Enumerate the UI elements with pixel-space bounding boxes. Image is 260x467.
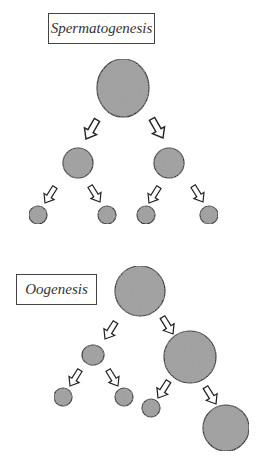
first-polar-body-cell (82, 345, 104, 365)
secondary-spermatocyte-right-cell (154, 148, 184, 178)
primary-oocyte-cell (115, 266, 165, 316)
secondary-oocyte-cell (164, 331, 216, 383)
arrow-icon (144, 184, 164, 206)
arrow-icon (100, 319, 121, 342)
ovum-cell (203, 405, 249, 451)
polar-body-cell (54, 388, 72, 406)
spermatid-cell (29, 206, 47, 224)
arrow-icon (85, 183, 105, 205)
arrow-icon (146, 115, 169, 141)
arrow-icon (65, 367, 85, 389)
arrow-icon (153, 378, 174, 401)
polar-body-cell (115, 388, 133, 406)
spermatogenesis-cells (29, 59, 218, 224)
arrow-icon (103, 367, 123, 389)
arrow-icon (40, 184, 60, 206)
spermatid-cell (200, 206, 218, 224)
polar-body-cell (142, 399, 160, 417)
arrow-icon (157, 314, 178, 337)
primary-spermatocyte-cell (97, 59, 149, 117)
oogenesis-cells (54, 266, 249, 451)
spermatid-cell (98, 206, 116, 224)
arrow-icon (188, 183, 208, 205)
arrow-icon (80, 116, 103, 142)
arrow-icon (200, 384, 221, 407)
spermatid-cell (137, 206, 155, 224)
secondary-spermatocyte-left-cell (63, 148, 93, 178)
cell-division-diagram (0, 0, 260, 467)
